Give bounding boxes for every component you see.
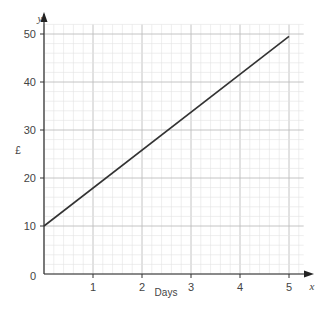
- grid: [44, 24, 304, 274]
- y-tick-label: 0: [30, 270, 36, 282]
- y-tick-label: 40: [24, 76, 36, 88]
- x-tick-label: 1: [90, 281, 96, 293]
- y-tick-label: 50: [24, 28, 36, 40]
- y-axis-label: £: [15, 145, 21, 156]
- y-tick-label: 20: [24, 172, 36, 184]
- x-axis-symbol: x: [309, 280, 315, 292]
- data-line: [44, 36, 289, 226]
- y-axis-symbol: y: [37, 12, 43, 24]
- axes: [40, 12, 314, 278]
- tick-labels: 1234501020304050: [24, 28, 292, 293]
- line-chart: 1234501020304050 Days £ y x: [0, 0, 329, 314]
- y-tick-label: 30: [24, 124, 36, 136]
- x-tick-label: 4: [237, 281, 243, 293]
- x-tick-label: 2: [139, 281, 145, 293]
- x-tick-label: 3: [188, 281, 194, 293]
- y-tick-label: 10: [24, 220, 36, 232]
- x-axis-label: Days: [155, 287, 178, 298]
- x-tick-label: 5: [286, 281, 292, 293]
